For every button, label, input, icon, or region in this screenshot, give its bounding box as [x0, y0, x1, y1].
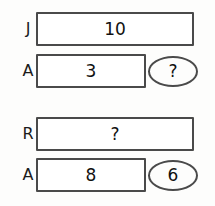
- bar-a2[interactable]: 8: [36, 158, 146, 192]
- row-label-j: J: [20, 12, 36, 46]
- difference-value-a1: ?: [150, 58, 196, 85]
- bar-value-a1: 3: [38, 56, 144, 86]
- row-label-r: R: [20, 117, 36, 151]
- difference-bubble-a1[interactable]: ?: [148, 56, 198, 87]
- difference-bubble-a2[interactable]: 6: [148, 160, 198, 191]
- row-label-a2: A: [20, 158, 36, 192]
- bar-value-r: ?: [38, 119, 192, 149]
- bar-a1[interactable]: 3: [36, 54, 146, 88]
- bar-model-diagram: J 10 A 3 ? R ? A 8 6: [0, 0, 215, 206]
- bar-value-a2: 8: [38, 160, 144, 190]
- difference-value-a2: 6: [150, 162, 196, 189]
- bar-value-j: 10: [38, 14, 192, 44]
- row-label-a1: A: [20, 54, 36, 88]
- bar-r[interactable]: ?: [36, 117, 194, 151]
- bar-j[interactable]: 10: [36, 12, 194, 46]
